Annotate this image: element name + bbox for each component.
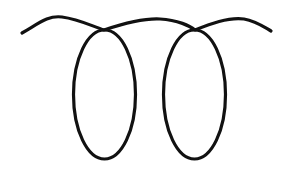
drawing-canvas bbox=[0, 0, 289, 170]
line-drawing bbox=[0, 0, 289, 170]
wavy-line bbox=[22, 17, 271, 33]
right-loop bbox=[164, 30, 226, 159]
left-loop bbox=[74, 30, 136, 159]
